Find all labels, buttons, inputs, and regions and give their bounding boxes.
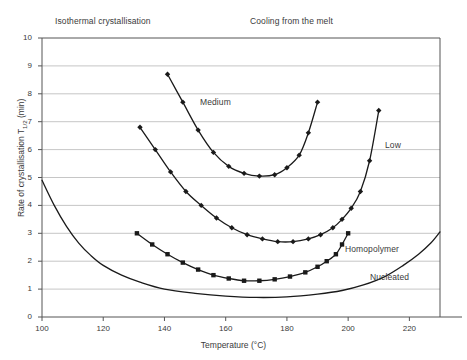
data-point bbox=[260, 236, 265, 241]
x-tick-label: 200 bbox=[333, 324, 363, 333]
series-label-nucleated: Nucleated bbox=[370, 272, 409, 282]
y-axis-label: Rate of crystallisation T1/2 (min) bbox=[16, 78, 28, 238]
data-point bbox=[306, 236, 311, 241]
plot-area bbox=[0, 0, 467, 360]
x-tick-label: 220 bbox=[394, 324, 424, 333]
x-tick-label: 100 bbox=[27, 324, 57, 333]
data-point bbox=[257, 173, 262, 178]
data-point bbox=[272, 277, 276, 281]
y-tick-label: 4 bbox=[12, 200, 32, 209]
data-point bbox=[150, 242, 154, 246]
data-point bbox=[334, 252, 338, 256]
x-axis-label: Temperature (°C) bbox=[0, 340, 467, 350]
data-point bbox=[346, 231, 350, 235]
data-point bbox=[241, 171, 246, 176]
data-point bbox=[165, 252, 169, 256]
series-label-homopolymer: Homopolymer bbox=[345, 244, 399, 254]
data-point bbox=[367, 158, 372, 163]
data-point bbox=[272, 172, 277, 177]
data-series-layer bbox=[42, 72, 440, 298]
y-tick-label: 8 bbox=[12, 89, 32, 98]
data-point bbox=[306, 130, 311, 135]
data-point bbox=[340, 242, 344, 246]
data-point bbox=[315, 99, 320, 104]
y-tick-label: 0 bbox=[12, 312, 32, 321]
data-point bbox=[275, 239, 280, 244]
data-point bbox=[315, 265, 319, 269]
data-point bbox=[257, 279, 261, 283]
series-line bbox=[168, 74, 318, 176]
x-tick-label: 140 bbox=[149, 324, 179, 333]
chart-figure: Isothermal crystallisation Cooling from … bbox=[0, 0, 467, 360]
data-point bbox=[244, 232, 249, 237]
x-tick-label: 120 bbox=[88, 324, 118, 333]
y-tick-label: 5 bbox=[12, 173, 32, 182]
y-tick-label: 3 bbox=[12, 228, 32, 237]
y-tick-label: 1 bbox=[12, 284, 32, 293]
data-point bbox=[180, 99, 185, 104]
y-tick-label: 10 bbox=[12, 33, 32, 42]
data-point bbox=[288, 274, 292, 278]
data-point bbox=[303, 270, 307, 274]
data-point bbox=[181, 260, 185, 264]
y-tick-label: 7 bbox=[12, 117, 32, 126]
y-tick-label: 2 bbox=[12, 256, 32, 265]
data-point bbox=[242, 279, 246, 283]
series-medium bbox=[165, 72, 320, 179]
series-line bbox=[137, 233, 348, 281]
data-point bbox=[165, 72, 170, 77]
data-point bbox=[135, 231, 139, 235]
data-point bbox=[290, 239, 295, 244]
annotation-isothermal-crystallisation: Isothermal crystallisation bbox=[55, 16, 151, 26]
series-label-low: Low bbox=[385, 140, 401, 150]
x-tick-label: 160 bbox=[211, 324, 241, 333]
data-point bbox=[227, 276, 231, 280]
gridlines bbox=[42, 66, 440, 289]
x-axis-ticks bbox=[42, 317, 409, 321]
series-label-medium: Medium bbox=[200, 97, 231, 107]
data-point bbox=[325, 259, 329, 263]
data-point bbox=[318, 232, 323, 237]
data-point bbox=[196, 267, 200, 271]
y-tick-label: 9 bbox=[12, 61, 32, 70]
data-point bbox=[376, 108, 381, 113]
x-tick-label: 180 bbox=[272, 324, 302, 333]
data-point bbox=[358, 189, 363, 194]
data-point bbox=[229, 225, 234, 230]
series-homopolymer bbox=[135, 231, 351, 283]
annotation-cooling-from-the-melt: Cooling from the melt bbox=[250, 16, 333, 26]
data-point bbox=[211, 273, 215, 277]
y-axis-ticks bbox=[38, 38, 42, 317]
y-tick-label: 6 bbox=[12, 145, 32, 154]
